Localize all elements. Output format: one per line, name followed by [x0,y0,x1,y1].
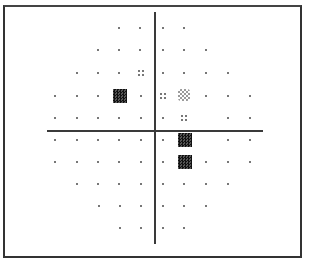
dot-symbol-icon [156,155,170,169]
dot-symbol-icon [199,43,213,57]
dot-symbol-icon [70,177,84,191]
dot-symbol-icon [91,66,105,80]
dot-symbol-icon [48,155,62,169]
dot-symbol-icon [177,66,191,80]
dot-symbol-icon [92,199,106,213]
quad-symbol-icon [156,89,170,103]
dot-symbol-icon [221,89,235,103]
dot-symbol-icon [156,177,170,191]
gray-symbol-icon [178,89,190,101]
dot-symbol-icon [243,111,257,125]
quad-symbol-icon [134,66,148,80]
dot-symbol-icon [177,221,191,235]
dot-symbol-icon [70,89,84,103]
dot-symbol-icon [91,177,105,191]
dot-symbol-icon [199,66,213,80]
dot-symbol-icon [156,199,170,213]
dot-symbol-icon [156,43,170,57]
dot-symbol-icon [243,155,257,169]
dot-symbol-icon [112,43,126,57]
dot-symbol-icon [112,133,126,147]
dot-symbol-icon [199,89,213,103]
dot-symbol-icon [177,177,191,191]
dot-symbol-icon [134,111,148,125]
dot-symbol-icon [199,177,213,191]
dot-symbol-icon [91,89,105,103]
dot-symbol-icon [112,111,126,125]
dot-symbol-icon [134,177,148,191]
dot-symbol-icon [91,111,105,125]
dot-symbol-icon [112,177,126,191]
dot-symbol-icon [243,89,257,103]
dot-symbol-icon [199,155,213,169]
dot-symbol-icon [48,111,62,125]
horizontal-axis [47,130,263,132]
dot-symbol-icon [113,221,127,235]
dark-symbol-icon [113,89,127,103]
dot-symbol-icon [70,155,84,169]
dot-symbol-icon [91,43,105,57]
dot-symbol-icon [134,89,148,103]
dot-symbol-icon [134,133,148,147]
dot-symbol-icon [134,155,148,169]
dot-symbol-icon [156,221,170,235]
dot-symbol-icon [112,66,126,80]
dot-symbol-icon [48,89,62,103]
dot-symbol-icon [70,66,84,80]
dot-symbol-icon [156,111,170,125]
dot-symbol-icon [221,133,235,147]
dot-symbol-icon [91,155,105,169]
dot-symbol-icon [221,155,235,169]
dot-symbol-icon [221,66,235,80]
dot-symbol-icon [221,111,235,125]
dot-symbol-icon [133,21,147,35]
dot-symbol-icon [177,43,191,57]
dot-symbol-icon [70,133,84,147]
dot-symbol-icon [156,66,170,80]
dot-symbol-icon [199,199,213,213]
dot-symbol-icon [91,133,105,147]
dot-symbol-icon [70,111,84,125]
dot-symbol-icon [48,133,62,147]
dark-symbol-icon [178,133,192,147]
dot-symbol-icon [112,21,126,35]
dot-symbol-icon [113,199,127,213]
dot-symbol-icon [156,21,170,35]
dot-symbol-icon [133,43,147,57]
dot-symbol-icon [177,199,191,213]
dot-symbol-icon [112,155,126,169]
dot-symbol-icon [134,221,148,235]
dark-symbol-icon [178,155,192,169]
dot-symbol-icon [156,133,170,147]
dot-symbol-icon [221,177,235,191]
dot-symbol-icon [243,133,257,147]
dot-symbol-icon [134,199,148,213]
dot-symbol-icon [177,21,191,35]
quad-symbol-icon [177,111,191,125]
